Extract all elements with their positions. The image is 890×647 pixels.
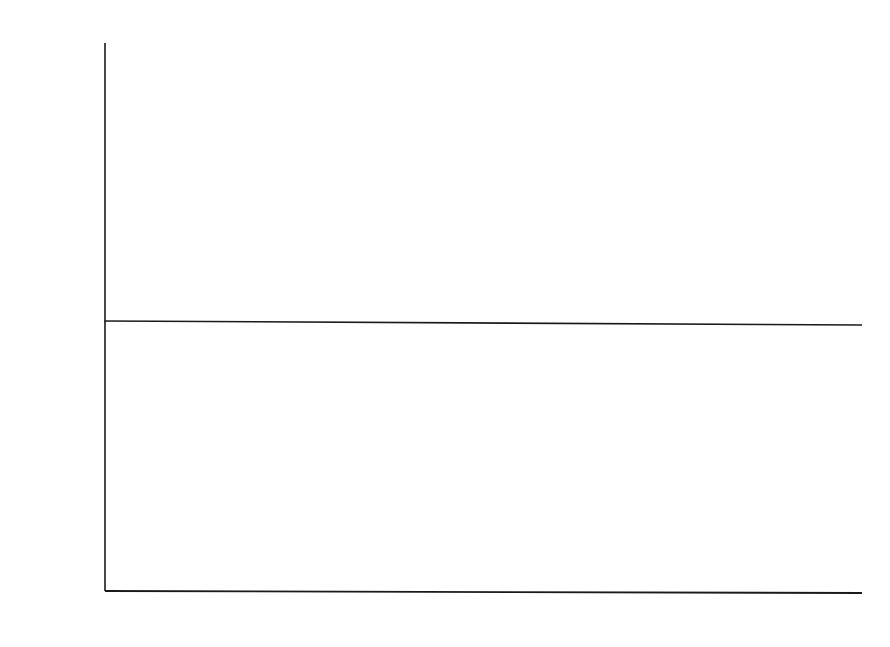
zonal-flow-panel bbox=[105, 321, 862, 593]
panel-divider bbox=[105, 321, 862, 325]
bottom-x-axis bbox=[105, 591, 862, 593]
renal-flow-panel bbox=[0, 0, 105, 322]
figure bbox=[0, 0, 890, 647]
